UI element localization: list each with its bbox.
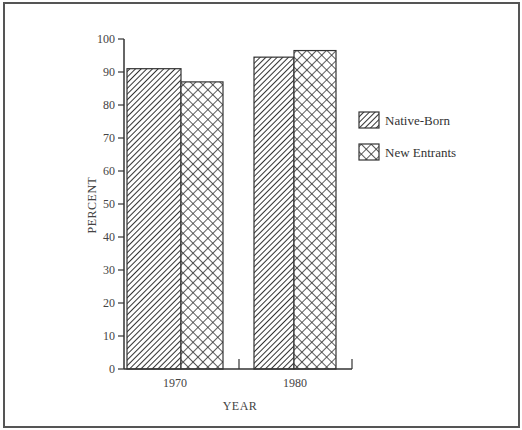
legend-swatch-new-entrants [359,144,379,160]
y-tick-label: 80 [103,98,115,112]
legend-swatch-native-born [359,112,379,128]
legend: Native-Born New Entrants [359,112,456,160]
y-tick-label: 100 [97,32,115,46]
legend-label-new-entrants: New Entrants [385,145,456,160]
y-axis: 0102030405060708090100 [97,32,124,376]
bar-native-born-1980 [254,57,294,369]
bar-new-entrants-1980 [294,51,336,369]
y-tick-label: 10 [103,329,115,343]
y-axis-title: PERCENT [85,176,99,233]
x-tick-label: 1980 [283,376,307,390]
x-tick-label: 1970 [163,376,187,390]
y-tick-label: 50 [103,197,115,211]
y-tick-label: 90 [103,65,115,79]
bars-group [127,51,336,369]
bar-new-entrants-1970 [181,82,223,369]
y-tick-label: 30 [103,263,115,277]
x-axis-title: YEAR [223,399,258,413]
bar-chart: 0102030405060708090100 19701980 PERCENT … [0,0,522,430]
y-tick-label: 60 [103,164,115,178]
bar-native-born-1970 [127,69,181,369]
y-tick-label: 0 [109,362,115,376]
y-tick-label: 70 [103,131,115,145]
y-tick-label: 40 [103,230,115,244]
y-tick-label: 20 [103,296,115,310]
legend-label-native-born: Native-Born [385,113,450,128]
